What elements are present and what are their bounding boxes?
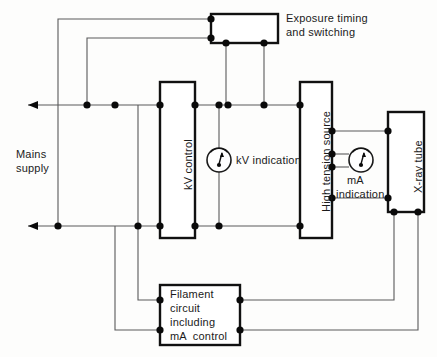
- junction-node: [222, 39, 229, 46]
- mains-supply-label-line1: Mains: [16, 148, 46, 162]
- mains-live-arrow-icon: [28, 101, 38, 109]
- xray-generator-block-diagram: Exposure timing and switching Mains supp…: [0, 0, 437, 357]
- junction-node: [156, 326, 163, 333]
- ma-indication-meter[interactable]: [349, 148, 373, 172]
- junction-node: [54, 222, 61, 229]
- junction-node: [134, 222, 141, 229]
- junction-node: [83, 101, 90, 108]
- filament-circuit-label-line1: Filament: [170, 288, 214, 302]
- junction-node: [390, 208, 397, 215]
- ma-indication-label-line2: indication: [336, 188, 384, 202]
- kv-control-to-filament-upper-wire: [138, 105, 160, 300]
- junction-node: [384, 127, 391, 134]
- junction-node: [156, 222, 163, 229]
- exposure-timing-label-line2: and switching: [286, 26, 355, 40]
- exposure-timing-and-switching-box[interactable]: [211, 14, 278, 43]
- junction-node: [207, 15, 214, 22]
- exposure-timing-label-line1: Exposure timing: [286, 12, 368, 26]
- filament-circuit-label-line4: mA control: [170, 330, 227, 344]
- junction-node: [260, 101, 267, 108]
- circuit-schematic-canvas: [0, 0, 437, 357]
- kv-indication-label: kV indication: [236, 154, 301, 168]
- junction-node: [111, 101, 118, 108]
- junction-node: [296, 101, 303, 108]
- mains-supply-label-line2: supply: [16, 162, 49, 176]
- junction-node: [191, 101, 198, 108]
- junction-node: [236, 326, 243, 333]
- mains-neutral-arrow-icon: [28, 222, 38, 230]
- filament-circuit-label-line3: including: [170, 316, 215, 330]
- junction-node: [156, 296, 163, 303]
- junction-node: [207, 34, 214, 41]
- junction-node: [414, 208, 421, 215]
- kv-indication-meter[interactable]: [207, 148, 231, 172]
- filament-circuit-label-line2: circuit: [170, 302, 200, 316]
- kv-control-label: kV control: [182, 139, 194, 190]
- junction-node: [236, 296, 243, 303]
- junction-node: [260, 39, 267, 46]
- high-tension-source-label: High tension source: [320, 111, 332, 212]
- junction-node: [384, 194, 391, 201]
- x-ray-tube-label: X-ray tube: [412, 140, 424, 193]
- junction-node: [215, 101, 222, 108]
- junction-node: [191, 222, 198, 229]
- junction-node: [296, 222, 303, 229]
- junction-node: [224, 101, 231, 108]
- junction-node: [215, 222, 222, 229]
- ma-indication-label-line1: mA: [347, 174, 364, 188]
- junction-node: [156, 101, 163, 108]
